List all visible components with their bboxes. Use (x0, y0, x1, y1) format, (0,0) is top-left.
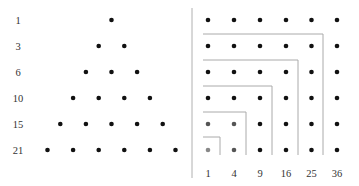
triangular-label: 6 (15, 67, 20, 78)
dot (122, 96, 127, 101)
dot (258, 70, 263, 75)
dot (232, 122, 237, 127)
dot (109, 18, 114, 23)
dot (335, 122, 340, 127)
dot (84, 122, 89, 127)
dot (135, 70, 140, 75)
dot (206, 148, 211, 153)
dot (284, 70, 289, 75)
square-label: 25 (306, 168, 317, 179)
square-label: 1 (205, 168, 210, 179)
dot (206, 70, 211, 75)
dot (58, 122, 63, 127)
number-pattern-diagram: 136101521 149162536 (0, 0, 359, 186)
dot (309, 44, 314, 49)
square-label: 9 (257, 168, 262, 179)
dot (335, 70, 340, 75)
dot (122, 148, 127, 153)
dot (206, 18, 211, 23)
triangular-label: 15 (13, 119, 24, 130)
triangular-label: 1 (15, 15, 20, 26)
dot (284, 148, 289, 153)
dot (122, 44, 127, 49)
triangular-label: 21 (13, 145, 24, 156)
dot (71, 96, 76, 101)
triangular-numbers-panel: 136101521 (13, 15, 178, 156)
square-numbers-panel: 149162536 (203, 18, 342, 179)
dot (309, 122, 314, 127)
dot (206, 122, 211, 127)
dot (45, 148, 50, 153)
dot (71, 148, 76, 153)
dot (309, 96, 314, 101)
dot (173, 148, 178, 153)
dot (258, 96, 263, 101)
triangular-label: 10 (13, 93, 24, 104)
dot (284, 122, 289, 127)
dot (232, 148, 237, 153)
dot (309, 148, 314, 153)
triangular-label: 3 (15, 41, 20, 52)
dot (258, 122, 263, 127)
dot (258, 18, 263, 23)
dot (148, 148, 153, 153)
square-label: 36 (332, 168, 343, 179)
dot (258, 148, 263, 153)
dot (309, 70, 314, 75)
dot (284, 96, 289, 101)
dot (109, 122, 114, 127)
dot (284, 18, 289, 23)
gnomon-line (203, 34, 323, 155)
dot (96, 148, 101, 153)
dot (160, 122, 165, 127)
dot (232, 44, 237, 49)
dot (96, 96, 101, 101)
dot (284, 44, 289, 49)
gnomon-line (203, 86, 272, 155)
dot (232, 70, 237, 75)
dot (335, 96, 340, 101)
dot (335, 44, 340, 49)
dot (148, 96, 153, 101)
dot (206, 96, 211, 101)
dot (206, 44, 211, 49)
dot (232, 96, 237, 101)
gnomon-line (203, 137, 220, 155)
dot (309, 18, 314, 23)
dot (335, 148, 340, 153)
square-label: 4 (231, 168, 237, 179)
gnomon-line (203, 60, 298, 155)
dot (84, 70, 89, 75)
dot (135, 122, 140, 127)
dot (335, 18, 340, 23)
square-label: 16 (281, 168, 292, 179)
dot (109, 70, 114, 75)
dot (258, 44, 263, 49)
dot (96, 44, 101, 49)
dot (232, 18, 237, 23)
